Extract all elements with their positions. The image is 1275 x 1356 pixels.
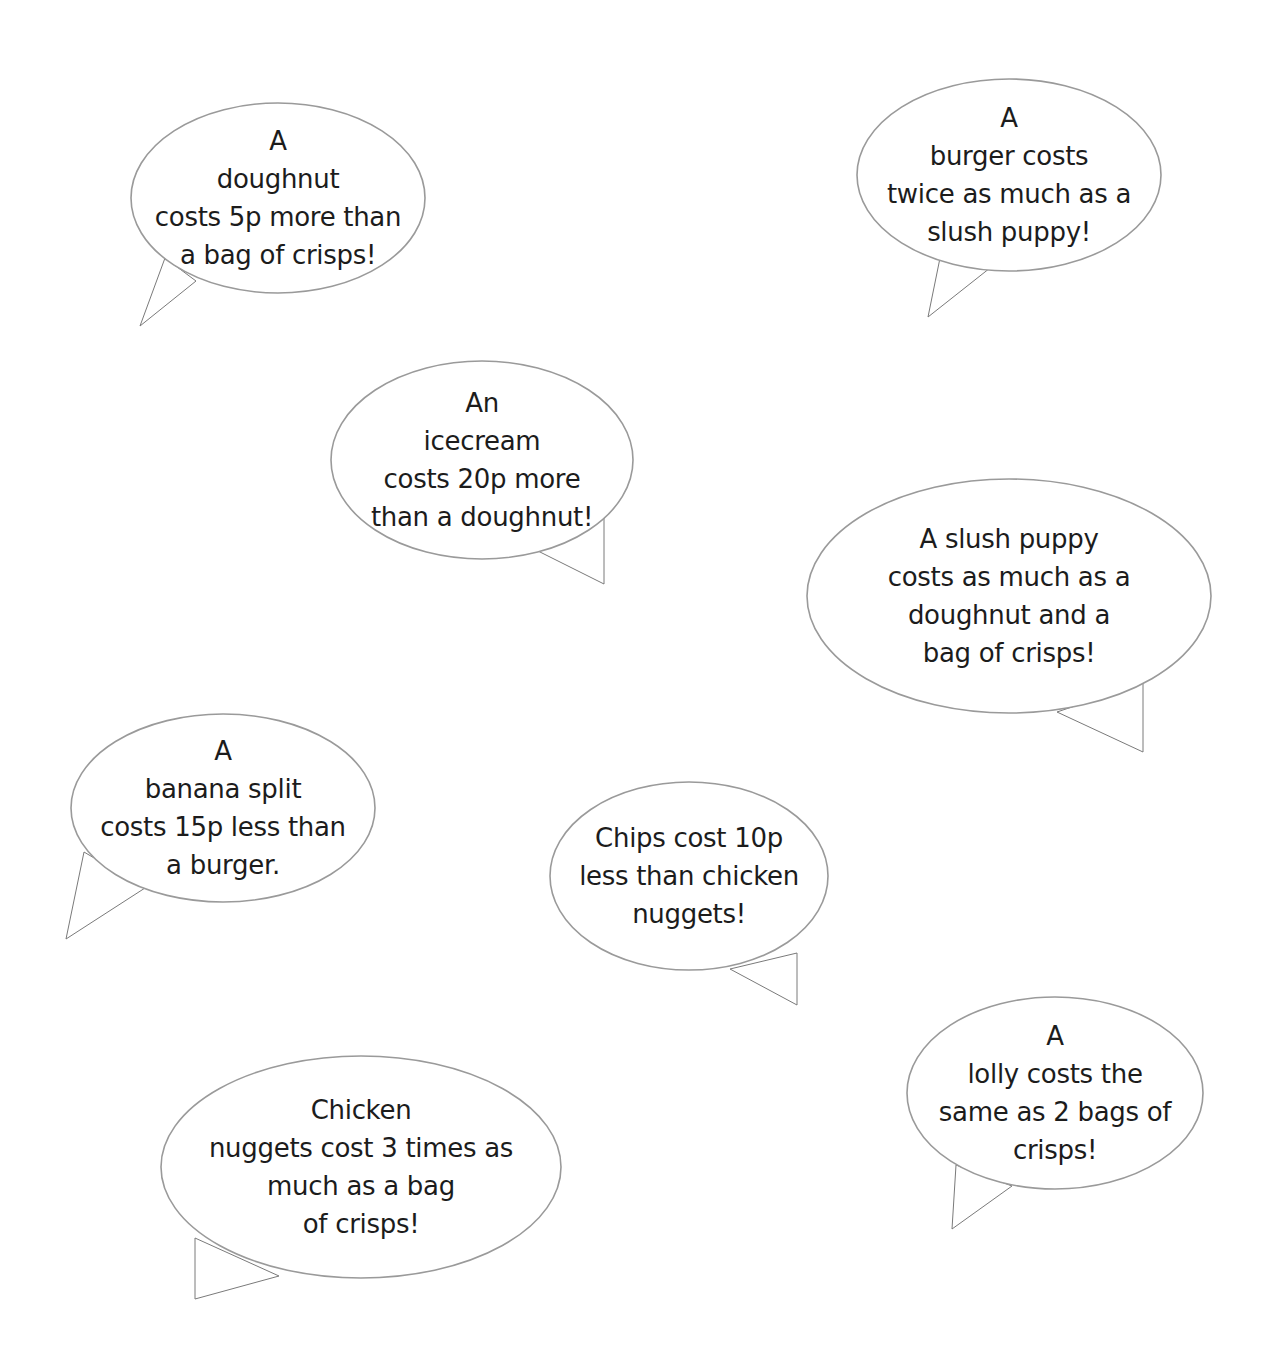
bubble-line: less than chicken [579,857,799,895]
bubble-line: banana split [145,770,302,808]
bubble-line: icecream [424,422,541,460]
bubble-line: slush puppy! [927,213,1091,251]
bubble-burger: A burger costs twice as much as a slush … [853,75,1165,321]
bubble-line: nuggets cost 3 times as [209,1129,513,1167]
bubble-line: costs 20p more [384,460,581,498]
bubble-line: costs 15p less than [100,808,346,846]
bubble-lolly: A lolly costs the same as 2 bags of cris… [903,993,1207,1233]
bubble-chips: Chips cost 10p less than chicken nuggets… [546,778,832,1009]
bubble-line: much as a bag [267,1167,455,1205]
bubble-line: a bag of crisps! [180,236,376,274]
bubble-text: A burger costs twice as much as a slush … [857,79,1161,271]
bubble-text: An icecream costs 20p more than a doughn… [331,361,633,559]
bubble-line: bag of crisps! [923,634,1096,672]
bubble-line: burger costs [930,137,1089,175]
bubble-line: A [1000,99,1018,137]
bubble-slush-puppy: A slush puppy costs as much as a doughnu… [803,475,1215,756]
bubble-doughnut: A doughnut costs 5p more than a bag of c… [127,99,429,330]
bubble-line: than a doughnut! [371,498,593,536]
bubble-line: Chicken [311,1091,412,1129]
bubble-line: A [1046,1017,1064,1055]
bubble-line: An [465,384,499,422]
bubble-line: Chips cost 10p [595,819,783,857]
bubble-line: A slush puppy [919,520,1098,558]
bubble-line: lolly costs the [967,1055,1142,1093]
bubble-line: A [269,122,287,160]
bubble-text: A slush puppy costs as much as a doughnu… [807,479,1211,713]
bubble-text: A lolly costs the same as 2 bags of cris… [907,997,1203,1189]
bubble-text: Chips cost 10p less than chicken nuggets… [550,782,828,970]
bubble-line: of crisps! [303,1205,420,1243]
bubble-line: doughnut [217,160,340,198]
bubble-line: same as 2 bags of [939,1093,1171,1131]
bubble-line: a burger. [166,846,280,884]
bubble-line: costs 5p more than [155,198,401,236]
bubble-line: costs as much as a [888,558,1131,596]
bubble-banana-split: A banana split costs 15p less than a bur… [62,710,379,943]
bubble-icecream: An icecream costs 20p more than a doughn… [327,357,637,588]
bubble-text: Chicken nuggets cost 3 times as much as … [161,1056,561,1278]
bubble-line: doughnut and a [908,596,1110,634]
bubble-text: A banana split costs 15p less than a bur… [71,714,375,902]
bubble-line: nuggets! [632,895,746,933]
bubble-text: A doughnut costs 5p more than a bag of c… [131,103,425,293]
speech-bubble-worksheet: A doughnut costs 5p more than a bag of c… [0,0,1275,1356]
bubble-line: twice as much as a [887,175,1131,213]
bubble-chicken-nuggets: Chicken nuggets cost 3 times as much as … [157,1052,565,1303]
bubble-line: A [214,732,232,770]
bubble-line: crisps! [1013,1131,1097,1169]
